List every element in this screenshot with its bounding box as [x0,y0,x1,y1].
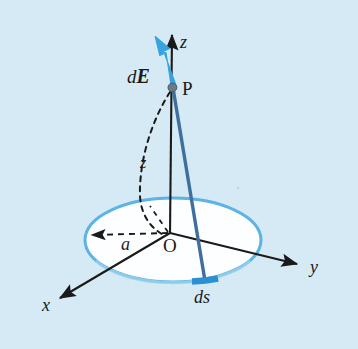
point-p-marker [168,83,177,92]
origin-label: O [163,236,177,255]
y-axis-label: y [310,258,318,276]
radius-label: a [121,235,130,253]
scan-speck [237,187,239,189]
diagram-svg [0,0,358,349]
z-axis-label: z [180,33,187,51]
height-label: z [140,155,146,171]
dE-field-symbol: E [137,65,150,87]
dE-vector-label: dE [127,66,150,86]
point-p-label: P [182,79,193,98]
ds-arc-element [192,279,218,282]
x-axis-label: x [42,296,50,314]
ds-label: ds [194,288,210,306]
dE-differential: d [127,66,137,87]
dE-vector-arrow [155,37,176,89]
figure-canvas: z y x P O dE a z ds [0,0,358,349]
